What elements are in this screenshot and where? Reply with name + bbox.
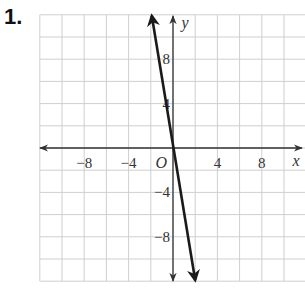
x-tick-label: −4 [121, 155, 137, 171]
coordinate-plane: −8−44884−4−8Oxy [0, 0, 305, 291]
labels: −8−44884−4−8Oxy [76, 14, 299, 245]
x-tick-label: 4 [214, 155, 222, 171]
axes [40, 16, 302, 281]
y-tick-label: −8 [154, 229, 170, 245]
y-tick-label: −4 [154, 184, 170, 200]
x-tick-label: −8 [76, 155, 92, 171]
y-tick-label: 8 [163, 51, 171, 67]
x-axis-label: x [291, 152, 299, 169]
y-axis-label: y [179, 14, 189, 32]
origin-label: O [155, 154, 167, 171]
x-tick-label: 8 [258, 155, 266, 171]
